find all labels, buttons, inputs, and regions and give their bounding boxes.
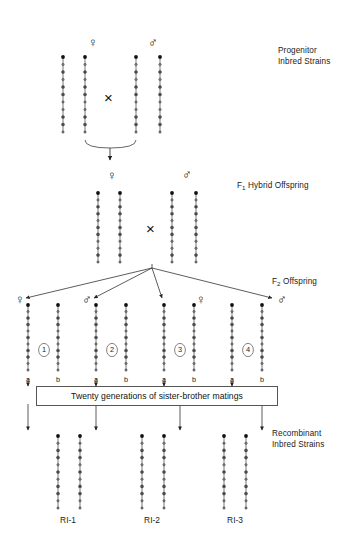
marker-dark bbox=[222, 449, 225, 452]
marker-light bbox=[261, 362, 264, 365]
p-male-symbol-icon: ♂ bbox=[148, 36, 158, 49]
marker-light bbox=[95, 330, 98, 333]
marker-light bbox=[95, 310, 98, 313]
marker-dark bbox=[140, 470, 143, 473]
marker-dark bbox=[194, 226, 197, 229]
marker-dark bbox=[260, 323, 263, 326]
marker-dark bbox=[96, 233, 99, 236]
chromosome-cap-marker bbox=[230, 303, 234, 307]
marker-dark bbox=[26, 349, 29, 352]
marker-dark bbox=[170, 205, 173, 208]
marker-dark bbox=[56, 316, 59, 319]
marker-dark bbox=[260, 349, 263, 352]
marker-light bbox=[79, 464, 82, 467]
marker-light bbox=[27, 369, 30, 372]
marker-dark bbox=[140, 485, 143, 488]
progenitor-cross-bracket bbox=[85, 140, 136, 148]
allele-label-4-a: a bbox=[230, 376, 234, 384]
marker-light bbox=[261, 310, 264, 313]
ri-strain-label-3: RI-3 bbox=[227, 516, 243, 525]
marker-light bbox=[195, 247, 198, 250]
marker-dark bbox=[83, 93, 86, 96]
marker-light bbox=[135, 63, 138, 66]
marker-light bbox=[57, 442, 60, 445]
marker-light bbox=[195, 219, 198, 222]
breeding-scheme-svg bbox=[0, 0, 347, 540]
chromosome-cap-marker bbox=[118, 191, 122, 195]
marker-dark bbox=[124, 316, 127, 319]
marker-light bbox=[163, 343, 166, 346]
label-f2-offspring: F2 Offspring bbox=[272, 276, 317, 287]
marker-dark bbox=[118, 254, 121, 257]
marker-light bbox=[245, 478, 248, 481]
chromosome-cap-marker bbox=[56, 303, 60, 307]
marker-dark bbox=[192, 323, 195, 326]
arrow-f1-to-f2-3 bbox=[152, 268, 162, 298]
marker-dark bbox=[78, 449, 81, 452]
marker-dark bbox=[194, 254, 197, 257]
marker-light bbox=[141, 464, 144, 467]
marker-light bbox=[245, 507, 248, 510]
arrow-f1-to-f2-4 bbox=[152, 268, 272, 298]
marker-light bbox=[125, 343, 128, 346]
chromosome-ri-4 bbox=[162, 434, 166, 509]
chromosome-f2-8 bbox=[260, 303, 264, 371]
chromosome-f2-5 bbox=[162, 303, 166, 371]
marker-dark bbox=[83, 70, 86, 73]
marker-light bbox=[171, 247, 174, 250]
chromosome-progenitor-4 bbox=[158, 55, 162, 133]
chromosome-f1-3 bbox=[170, 191, 174, 263]
f2-female-3-symbol-icon: ♀ bbox=[196, 293, 206, 306]
marker-light bbox=[57, 362, 60, 365]
marker-light bbox=[163, 310, 166, 313]
marker-light bbox=[97, 199, 100, 202]
marker-dark bbox=[118, 205, 121, 208]
marker-dark bbox=[78, 492, 81, 495]
marker-light bbox=[159, 131, 162, 134]
p-female-symbol-icon: ♀ bbox=[88, 36, 98, 49]
marker-dark bbox=[230, 355, 233, 358]
chromosome-cap-marker bbox=[162, 303, 166, 307]
marker-dark bbox=[26, 323, 29, 326]
marker-light bbox=[57, 369, 60, 372]
ri-line2: Inbred Strains bbox=[272, 440, 324, 449]
marker-dark bbox=[170, 226, 173, 229]
marker-dark bbox=[78, 470, 81, 473]
marker-dark bbox=[83, 115, 86, 118]
marker-light bbox=[223, 464, 226, 467]
marker-light bbox=[171, 261, 174, 264]
marker-dark bbox=[192, 349, 195, 352]
allele-label-3-b: b bbox=[192, 376, 196, 384]
chromosome-cap-marker bbox=[260, 303, 264, 307]
marker-light bbox=[79, 507, 82, 510]
label-recombinant-inbred-strains: Recombinant Inbred Strains bbox=[272, 428, 324, 450]
chromosome-cap-marker bbox=[26, 303, 30, 307]
marker-light bbox=[231, 362, 234, 365]
chromosome-f2-4 bbox=[124, 303, 128, 371]
marker-light bbox=[84, 101, 87, 104]
marker-dark bbox=[94, 355, 97, 358]
progenitor-line1: Progenitor bbox=[278, 46, 317, 55]
marker-dark bbox=[260, 316, 263, 319]
marker-light bbox=[223, 442, 226, 445]
marker-light bbox=[195, 199, 198, 202]
chromosome-cap-marker bbox=[194, 191, 198, 195]
marker-light bbox=[62, 101, 65, 104]
marker-dark bbox=[124, 349, 127, 352]
marker-dark bbox=[170, 254, 173, 257]
marker-dark bbox=[260, 336, 263, 339]
f2-male-2-symbol-icon: ♂ bbox=[82, 293, 92, 306]
progenitor-line2: Inbred Strains bbox=[278, 57, 330, 66]
marker-dark bbox=[192, 316, 195, 319]
marker-dark bbox=[162, 485, 165, 488]
marker-dark bbox=[162, 336, 165, 339]
marker-light bbox=[119, 240, 122, 243]
marker-dark bbox=[56, 323, 59, 326]
marker-light bbox=[97, 240, 100, 243]
chromosome-cap-marker bbox=[83, 55, 87, 59]
marker-light bbox=[79, 442, 82, 445]
marker-light bbox=[57, 310, 60, 313]
marker-light bbox=[195, 261, 198, 264]
marker-light bbox=[231, 343, 234, 346]
marker-light bbox=[84, 108, 87, 111]
